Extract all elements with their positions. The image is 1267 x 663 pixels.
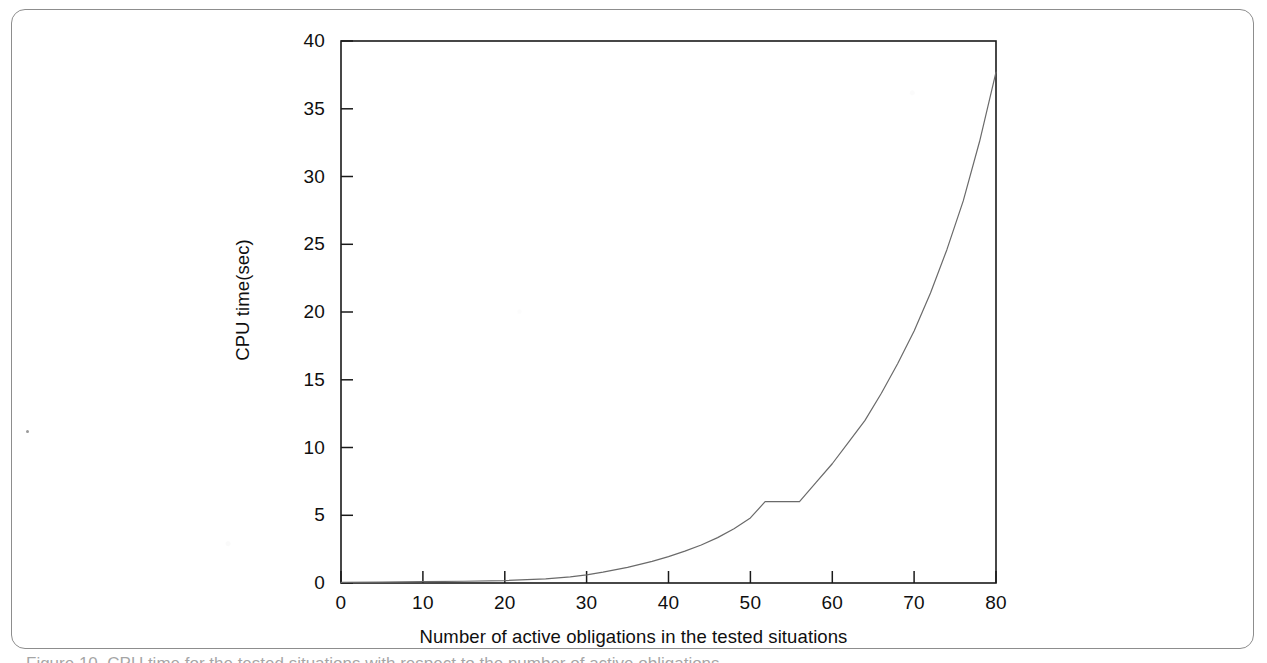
x-tick-label-0: 0 <box>336 592 347 614</box>
x-tick-label-30: 30 <box>576 592 598 614</box>
y-tick-label-0: 0 <box>281 572 325 594</box>
x-tick-label-50: 50 <box>740 592 762 614</box>
x-tick-label-60: 60 <box>822 592 844 614</box>
x-tick-label-80: 80 <box>985 592 1007 614</box>
x-tick-label-10: 10 <box>412 592 434 614</box>
figure-caption-cropped: Figure 10. CPU time for the tested situa… <box>26 655 1241 663</box>
y-tick-label-30: 30 <box>281 166 325 188</box>
cpu-time-line-chart: 0 5 10 15 20 25 30 35 40 0 10 20 30 40 5… <box>0 0 1267 663</box>
y-tick-label-10: 10 <box>281 437 325 459</box>
y-axis-ticks <box>341 41 353 583</box>
x-tick-label-40: 40 <box>658 592 680 614</box>
x-tick-label-20: 20 <box>494 592 516 614</box>
y-axis-title: CPU time(sec) <box>232 190 254 410</box>
x-axis-title: Number of active obligations in the test… <box>0 626 1267 648</box>
y-tick-label-20: 20 <box>281 301 325 323</box>
y-tick-label-40: 40 <box>281 30 325 52</box>
axes-frame <box>341 41 996 583</box>
y-tick-label-15: 15 <box>281 369 325 391</box>
y-tick-label-25: 25 <box>281 233 325 255</box>
plot-canvas <box>0 0 1267 663</box>
figure-page: 0 5 10 15 20 25 30 35 40 0 10 20 30 40 5… <box>0 0 1267 663</box>
x-tick-label-70: 70 <box>903 592 925 614</box>
y-tick-label-35: 35 <box>281 98 325 120</box>
y-tick-label-5: 5 <box>281 504 325 526</box>
cpu-time-curve <box>341 72 996 582</box>
